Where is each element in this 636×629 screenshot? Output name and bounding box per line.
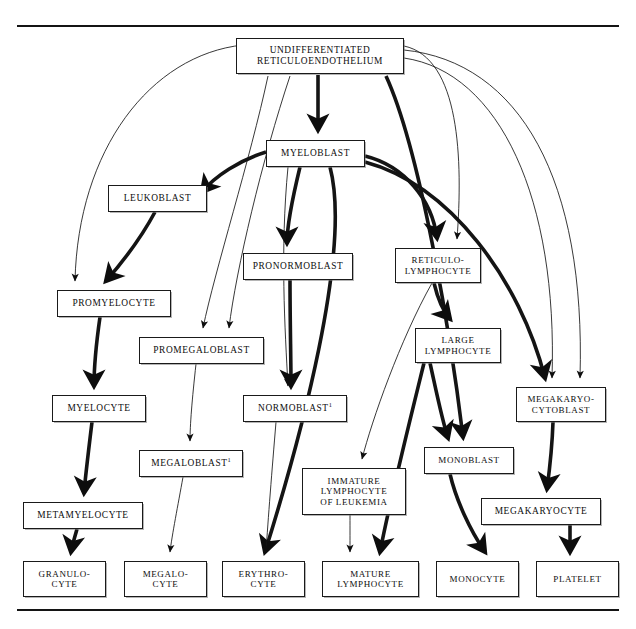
edge-largelymph-to-maturelymph: [380, 363, 424, 552]
node-label: MEGAKARYOCYTE: [492, 506, 591, 517]
node-reticulolymph[interactable]: RETICULO-LYMPHOCYTE: [395, 248, 481, 283]
node-maturelymph[interactable]: MATURELYMPHOCYTE: [322, 561, 419, 597]
node-normoblast[interactable]: NORMOBLAST1: [243, 395, 347, 422]
node-label: GRANULO-CYTE: [36, 569, 94, 589]
node-label: MEGAKARYO-CYTOBLAST: [524, 394, 597, 414]
node-label: MONOCYTE: [447, 574, 509, 584]
node-label: MEGALO-CYTE: [140, 569, 192, 589]
edge-monoblast-to-monocyte: [450, 474, 485, 552]
node-myeloblast[interactable]: MYELOBLAST: [266, 140, 365, 167]
node-largelymph[interactable]: LARGELYMPHOCYTE: [415, 328, 501, 363]
node-label: MONOBLAST: [435, 455, 502, 465]
node-label: IMMATURELYMPHOCYTEOF LEUKEMIA: [317, 476, 390, 506]
node-leukoblast[interactable]: LEUKOBLAST: [108, 185, 207, 212]
node-promyelocyte[interactable]: PROMYELOCYTE: [57, 290, 171, 317]
node-platelet[interactable]: PLATELET: [536, 561, 619, 597]
top-rule: [17, 25, 619, 27]
edge-myeloblast-to-leukoblast: [202, 152, 266, 192]
node-immature[interactable]: IMMATURELYMPHOCYTEOF LEUKEMIA: [302, 468, 406, 515]
edge-megaloblast-to-megalocyte: [170, 477, 183, 552]
node-megakaryoblast[interactable]: MEGAKARYO-CYTOBLAST: [516, 387, 606, 422]
node-label: LARGELYMPHOCYTE: [422, 335, 495, 355]
node-megakaryocyte[interactable]: MEGAKARYOCYTE: [481, 498, 601, 525]
edge-metamyelocyte-to-granulocyte: [71, 529, 77, 552]
node-promegalo[interactable]: PROMEGALOBLAST: [139, 337, 264, 364]
node-metamyelocyte[interactable]: METAMYELOCYTE: [23, 502, 143, 529]
bottom-rule: [17, 609, 619, 611]
edge-leukoblast-to-promyelocyte: [106, 212, 155, 281]
edge-promyelocyte-to-myelocyte: [94, 317, 100, 386]
node-monoblast[interactable]: MONOBLAST: [424, 447, 514, 474]
node-label: METAMYELOCYTE: [34, 510, 131, 521]
edge-pronormoblast-to-normoblast: [290, 280, 291, 386]
edge-undiff-to-promegalo: [203, 76, 268, 328]
edge-largelymph-to-monoblast: [430, 363, 448, 438]
diagram-canvas: UNDIFFERENTIATEDRETICULOENDOTHELIUMMYELO…: [0, 0, 636, 629]
node-label: MATURELYMPHOCYTE: [334, 569, 407, 589]
node-monocyte[interactable]: MONOCYTE: [436, 561, 519, 597]
node-label: PRONORMOBLAST: [250, 261, 347, 272]
node-label: PROMEGALOBLAST: [150, 345, 252, 356]
node-label: MEGALOBLAST1: [148, 458, 234, 469]
node-label: UNDIFFERENTIATEDRETICULOENDOTHELIUM: [254, 45, 386, 66]
node-label: NORMOBLAST1: [255, 403, 335, 414]
node-label: MYELOCYTE: [64, 403, 133, 414]
node-granulocyte[interactable]: GRANULO-CYTE: [23, 561, 106, 597]
node-megalocyte[interactable]: MEGALO-CYTE: [124, 561, 207, 597]
node-undiff[interactable]: UNDIFFERENTIATEDRETICULOENDOTHELIUM: [236, 38, 404, 74]
node-label: RETICULO-LYMPHOCYTE: [402, 255, 475, 275]
edge-undiff-to-reticulolymph: [404, 46, 459, 239]
node-label: PLATELET: [550, 574, 604, 584]
edge-myelocyte-to-metamyelocyte: [84, 422, 92, 493]
node-label: ERYTHRO-CYTE: [236, 569, 292, 589]
node-label: PROMYELOCYTE: [69, 298, 158, 309]
edge-myeloblast-to-reticulolymph: [365, 156, 437, 238]
node-megaloblast[interactable]: MEGALOBLAST1: [139, 450, 243, 477]
edge-promegalo-to-megaloblast: [190, 364, 196, 441]
edge-myeloblast-to-pronormoblast: [287, 167, 300, 243]
node-erythrocyte[interactable]: ERYTHRO-CYTE: [222, 561, 305, 597]
node-myelocyte[interactable]: MYELOCYTE: [52, 395, 146, 422]
node-label: MYELOBLAST: [278, 148, 353, 159]
node-label: LEUKOBLAST: [121, 193, 194, 204]
node-pronormoblast[interactable]: PRONORMOBLAST: [243, 253, 353, 280]
edge-megakaryoblast-to-megakaryocyte: [547, 422, 553, 489]
edge-undiff-to-promyelocyte: [75, 45, 243, 281]
